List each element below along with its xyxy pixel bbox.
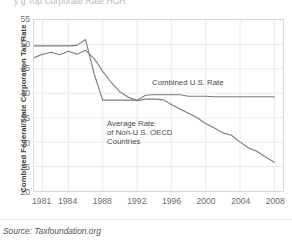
x-axis-tick-labels: 19811984198819921996200020042008 bbox=[0, 196, 292, 210]
plot-area bbox=[33, 19, 284, 192]
x-tick-1992: 1992 bbox=[127, 196, 146, 206]
y-tick-55: 55 bbox=[6, 15, 30, 23]
series-line-us-rate bbox=[34, 40, 274, 101]
x-tick-2004: 2004 bbox=[231, 196, 250, 206]
annotation-oecd-line3: Countries bbox=[107, 137, 172, 146]
y-tick-50: 50 bbox=[6, 40, 30, 48]
annotation-us-rate: Combined U.S. Rate bbox=[152, 78, 224, 87]
x-tick-1988: 1988 bbox=[93, 196, 112, 206]
chart-svg bbox=[34, 20, 283, 191]
y-tick-45: 45 bbox=[6, 64, 30, 72]
x-tick-1984: 1984 bbox=[58, 196, 77, 206]
x-tick-1996: 1996 bbox=[162, 196, 181, 206]
y-tick-20: 20 bbox=[6, 188, 30, 196]
annotation-us-rate-line1: Combined U.S. Rate bbox=[152, 78, 224, 87]
footer-divider bbox=[0, 219, 292, 220]
chart-container: y g Top Corporate Rate HGH Combined Fede… bbox=[0, 0, 292, 242]
y-tick-25: 25 bbox=[6, 163, 30, 171]
x-tick-2000: 2000 bbox=[197, 196, 216, 206]
y-tick-30: 30 bbox=[6, 139, 30, 147]
y-tick-35: 35 bbox=[6, 114, 30, 122]
source-note: Source: Taxfoundation.org bbox=[3, 226, 101, 236]
x-tick-2008: 2008 bbox=[266, 196, 285, 206]
annotation-oecd-rate: Average Rate of Non-U.S. OECD Countries bbox=[107, 119, 172, 147]
annotation-oecd-line2: of Non-U.S. OECD bbox=[107, 128, 172, 137]
clipped-title: y g Top Corporate Rate HGH bbox=[14, 0, 292, 11]
y-tick-40: 40 bbox=[6, 89, 30, 97]
x-tick-1981: 1981 bbox=[32, 196, 51, 206]
annotation-oecd-line1: Average Rate bbox=[107, 119, 172, 128]
clipped-title-text: y g Top Corporate Rate HGH bbox=[14, 0, 292, 6]
